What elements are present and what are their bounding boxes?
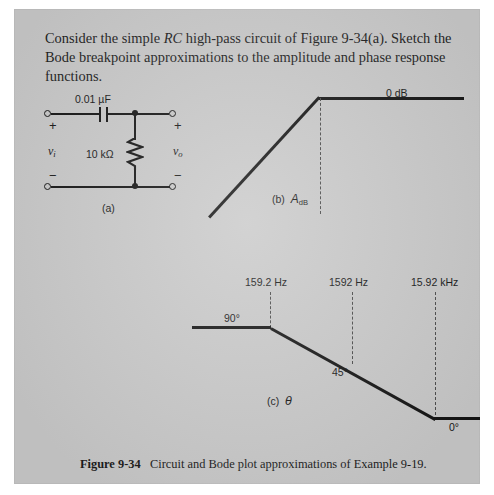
phase-dashed-line-1592hz <box>352 292 353 364</box>
capacitor-value-label: 0.01 µF <box>75 93 111 105</box>
amplitude-flat-asymptote <box>319 97 464 100</box>
part-b-label: (b) AdB <box>272 192 308 207</box>
input-terminal-top <box>44 110 51 117</box>
phase-45-label: 45° <box>332 366 348 378</box>
phase-dashed-line-15920hz <box>435 292 436 420</box>
wire-shunt-top <box>134 113 136 140</box>
output-plus-sign: + <box>174 119 182 132</box>
freq-label-159hz: 159.2 Hz <box>245 276 287 288</box>
rc-emphasis: RC <box>164 30 182 46</box>
amplitude-breakpoint-dashed-line <box>320 98 321 214</box>
figure-page: Consider the simple RC high-pass circuit… <box>0 0 494 495</box>
wire-bottom <box>51 186 170 188</box>
input-terminal-bottom <box>44 183 51 190</box>
part-c-label: (c) θ <box>267 394 292 408</box>
phase-0-plateau <box>434 417 480 420</box>
figure-caption: Figure 9-34 Circuit and Bode plot approx… <box>80 457 427 472</box>
output-minus-sign: − <box>174 169 182 182</box>
output-terminal-top <box>169 110 176 117</box>
freq-label-1592hz: 1592 Hz <box>329 276 368 288</box>
capacitor-plate-left <box>99 107 101 122</box>
resistor-symbol <box>126 138 144 170</box>
problem-statement: Consider the simple RC high-pass circuit… <box>45 29 465 86</box>
input-voltage-label: vi <box>48 144 56 159</box>
phase-0-label: 0° <box>449 421 459 433</box>
scanned-page-sheet: Consider the simple RC high-pass circuit… <box>14 9 480 484</box>
phase-90-label: 90° <box>224 312 240 324</box>
figure-caption-label: Figure 9-34 <box>80 457 141 471</box>
phase-dashed-line-159hz <box>270 292 271 328</box>
resistor-value-label: 10 kΩ <box>86 148 114 160</box>
wire-top-right <box>108 113 169 115</box>
phase-90-plateau <box>192 326 271 329</box>
figure-caption-text: Circuit and Bode plot approximations of … <box>150 457 427 471</box>
input-plus-sign: + <box>49 119 57 132</box>
part-a-label: (a) <box>102 202 115 214</box>
input-minus-sign: − <box>49 169 57 182</box>
junction-node-bottom <box>132 183 138 189</box>
output-terminal-bottom <box>169 183 176 190</box>
wire-top-left <box>51 113 99 115</box>
junction-node-top <box>132 110 138 116</box>
phase-transition-slope <box>270 327 436 420</box>
problem-line-1: Consider the simple RC high-pass circuit… <box>45 30 451 84</box>
freq-label-15920hz: 15.92 kHz <box>411 276 458 288</box>
output-voltage-label: vo <box>173 144 183 159</box>
